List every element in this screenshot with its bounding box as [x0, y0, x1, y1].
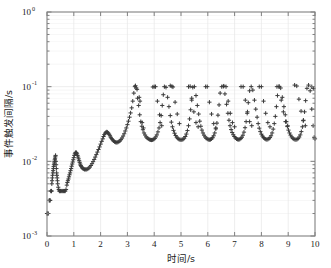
y-axis-title: 事件触发间隔/s — [3, 90, 14, 158]
x-tick-label: 2 — [98, 239, 103, 249]
event-trigger-interval-scatter-chart: 012345678910 10010-110-210-3 时间/s 事件触发间隔… — [0, 0, 331, 268]
x-tick-label: 6 — [206, 239, 211, 249]
x-tick-label: 4 — [152, 239, 157, 249]
svg-text:-3: -3 — [32, 229, 37, 236]
x-tick-label: 1 — [72, 239, 77, 249]
x-tick-label: 0 — [45, 239, 50, 249]
x-axis-title: 时间/s — [167, 253, 195, 264]
svg-text:10: 10 — [22, 231, 32, 241]
chart-background — [0, 0, 331, 268]
svg-text:10: 10 — [22, 157, 32, 167]
x-tick-label: 9 — [286, 239, 291, 249]
svg-text:10: 10 — [22, 7, 32, 17]
x-tick-label: 10 — [311, 239, 321, 249]
svg-text:10: 10 — [22, 82, 32, 92]
x-tick-label: 8 — [259, 239, 264, 249]
x-tick-label: 3 — [125, 239, 130, 249]
x-tick-label: 5 — [179, 239, 184, 249]
svg-text:-1: -1 — [32, 79, 37, 86]
figure-container: 012345678910 10010-110-210-3 时间/s 事件触发间隔… — [0, 0, 331, 268]
svg-text:-2: -2 — [32, 154, 37, 161]
svg-text:0: 0 — [32, 5, 35, 12]
x-tick-label: 7 — [232, 239, 237, 249]
